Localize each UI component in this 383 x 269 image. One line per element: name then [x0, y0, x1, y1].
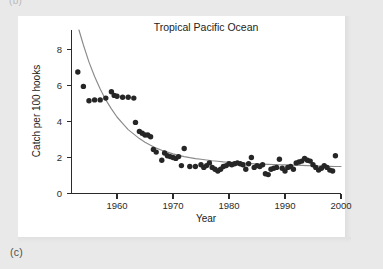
data-point [86, 98, 91, 103]
data-point [240, 162, 245, 167]
data-point [243, 167, 248, 172]
x-tick-label: 2000 [330, 200, 351, 211]
data-point [249, 155, 254, 160]
data-point [274, 165, 279, 170]
x-axis-ticks: 19601970198019902000 [106, 194, 351, 212]
data-point [75, 69, 80, 74]
x-tick-label: 1960 [106, 200, 127, 211]
data-point [176, 154, 181, 159]
data-point [179, 163, 184, 168]
data-point [193, 164, 198, 169]
y-tick-label: 6 [57, 80, 62, 91]
x-tick-label: 1990 [274, 200, 295, 211]
y-axis-ticks: 02468 [57, 44, 72, 199]
x-tick-label: 1970 [162, 200, 183, 211]
data-point [92, 97, 97, 102]
data-point [182, 146, 187, 151]
data-points [75, 69, 338, 177]
data-point [103, 95, 108, 100]
data-point [120, 95, 125, 100]
data-point [207, 160, 212, 165]
data-point [148, 134, 153, 139]
data-point [187, 164, 192, 169]
y-tick-label: 2 [57, 152, 62, 163]
data-point [277, 157, 282, 162]
data-point [291, 167, 296, 172]
data-point [98, 97, 103, 102]
data-point [133, 120, 138, 125]
data-point [333, 153, 338, 158]
y-tick-label: 0 [57, 188, 62, 199]
data-point [154, 149, 159, 154]
data-point [126, 95, 131, 100]
x-tick-label: 1980 [218, 200, 239, 211]
chart-title: Tropical Pacific Ocean [154, 21, 259, 33]
data-point [246, 161, 251, 166]
data-point [260, 162, 265, 167]
data-point [114, 94, 119, 99]
data-point [330, 168, 335, 173]
data-point [131, 95, 136, 100]
y-tick-label: 4 [57, 116, 62, 127]
scatter-chart: 19601970198019902000 02468 Tropical Paci… [0, 0, 383, 269]
chart-axes [72, 30, 342, 194]
y-tick-label: 8 [57, 44, 62, 55]
data-point [159, 158, 164, 163]
panel-letter: (c) [10, 246, 23, 258]
y-axis-label: Catch per 100 hooks [31, 65, 42, 157]
x-axis-label: Year [196, 213, 217, 224]
data-point [266, 172, 271, 177]
data-point [81, 84, 86, 89]
